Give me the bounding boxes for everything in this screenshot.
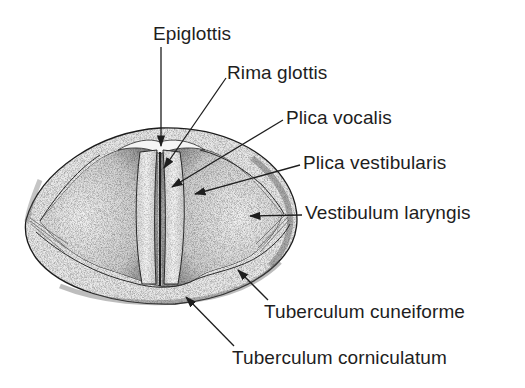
label-tuberculum-corniculatum: Tuberculum corniculatum bbox=[232, 348, 447, 367]
larynx-illustration bbox=[0, 0, 525, 388]
label-tuberculum-cuneiforme: Tuberculum cuneiforme bbox=[264, 302, 465, 321]
larynx-diagram: Epiglottis Rima glottis Plica vocalis Pl… bbox=[0, 0, 525, 388]
label-rima-glottis: Rima glottis bbox=[227, 63, 327, 82]
tuberculum-corniculatum-pointer bbox=[186, 297, 234, 346]
label-plica-vocalis: Plica vocalis bbox=[286, 108, 392, 127]
vocal-folds bbox=[136, 150, 184, 286]
label-vestibulum-laryngis: Vestibulum laryngis bbox=[305, 203, 471, 222]
label-epiglottis: Epiglottis bbox=[153, 24, 231, 43]
label-plica-vestibularis: Plica vestibularis bbox=[303, 153, 446, 172]
